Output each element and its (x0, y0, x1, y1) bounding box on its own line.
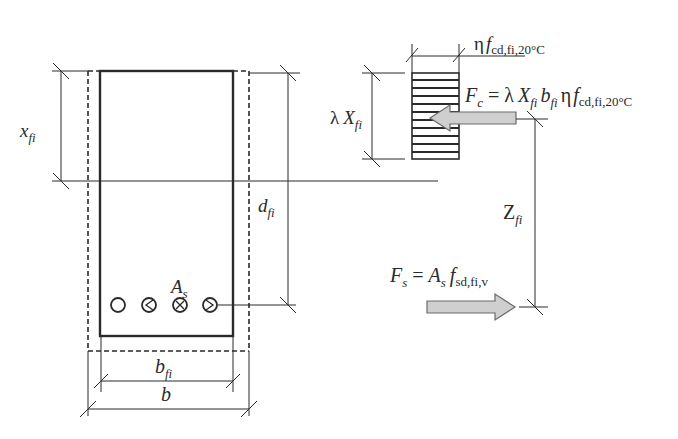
compression-force-arrow (430, 105, 516, 131)
tension-force-equation: Fs=Asfsd,fi,v (389, 264, 488, 290)
reduced-section (100, 71, 233, 336)
as-label: As (169, 276, 188, 301)
d-fi-dimension (218, 65, 300, 313)
rebar-1 (111, 298, 125, 312)
lambda-x-fi-label: λXfi (330, 107, 362, 132)
lambda-x-fi-dimension (362, 65, 405, 167)
b-fi-label: bfi (155, 355, 173, 381)
x-fi-dimension (52, 63, 88, 189)
stress-value-label: ηfcd,fi,20°C (474, 33, 545, 57)
rebar-4 (203, 298, 217, 312)
d-fi-label: dfi (258, 195, 275, 220)
diagram-svg: xfi dfi As bfi (0, 0, 678, 439)
x-fi-label: xfi (19, 120, 36, 145)
fire-design-section-diagram: xfi dfi As bfi (0, 0, 678, 439)
lever-arm-label: Zfi (503, 201, 523, 227)
rebars (111, 298, 217, 312)
rebar-2 (142, 298, 156, 312)
tension-force-arrow (427, 294, 515, 320)
compression-force-equation: Fc=λXfibfiηfcd,fi,20°C (464, 84, 632, 110)
b-label: b (161, 383, 171, 405)
